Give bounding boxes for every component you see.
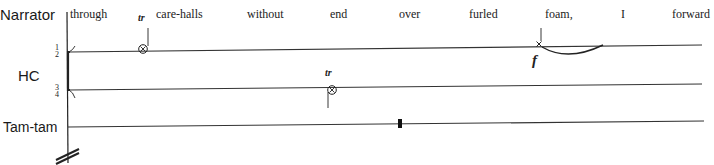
tam-tam-stroke-icon	[398, 119, 402, 128]
hc-bracket-icon	[68, 52, 70, 90]
hc-lower-staff-line	[69, 84, 702, 90]
x-note-with-tie-icon	[537, 28, 604, 54]
circled-x-note-icon	[139, 28, 148, 53]
score-graphics	[0, 0, 714, 165]
bracket-top-hook-icon	[69, 46, 75, 52]
bracket-bottom-hook-icon	[69, 90, 75, 98]
hc-upper-staff-line	[69, 45, 702, 52]
music-score: Narrator HC Tam-tam 1 2 3 4 through care…	[0, 0, 714, 165]
tam-tam-staff-line	[68, 121, 704, 127]
circled-x-note-icon	[328, 86, 337, 108]
